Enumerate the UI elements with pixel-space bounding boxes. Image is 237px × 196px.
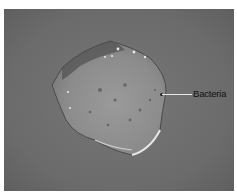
bacteria-label: Bacteria — [193, 88, 226, 99]
label-pointer-line — [162, 94, 192, 95]
